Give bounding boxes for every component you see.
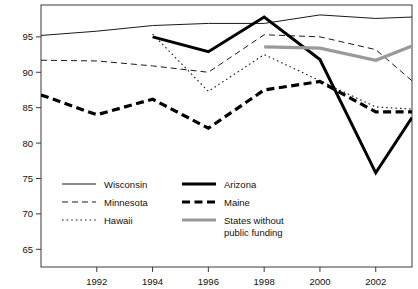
x-axis-label: 2002: [365, 276, 386, 287]
y-axis-label: 80: [22, 138, 33, 149]
legend-label-hawaii: Hawaii: [104, 215, 133, 226]
y-axis-label: 95: [22, 31, 33, 42]
y-axis-label: 90: [22, 67, 33, 78]
legend-label-maine: Maine: [224, 197, 250, 208]
y-axis-label: 70: [22, 208, 33, 219]
line-chart: 65707580859095199219941996199820002002Wi…: [0, 0, 418, 289]
y-axis-label: 85: [22, 102, 33, 113]
x-axis-label: 2000: [309, 276, 330, 287]
legend-label-states-without-public-funding: States without: [224, 215, 284, 226]
x-axis-label: 1992: [86, 276, 107, 287]
chart-container: 65707580859095199219941996199820002002Wi…: [0, 0, 418, 289]
legend-label-wisconsin: Wisconsin: [104, 179, 147, 190]
legend-label-states-without-public-funding-line2: public funding: [224, 227, 283, 238]
x-axis-label: 1994: [142, 276, 163, 287]
y-axis-label: 75: [22, 173, 33, 184]
legend-label-arizona: Arizona: [224, 179, 257, 190]
x-axis-label: 1998: [254, 276, 275, 287]
legend-label-minnesota: Minnesota: [104, 197, 149, 208]
x-axis-label: 1996: [198, 276, 219, 287]
y-axis-label: 65: [22, 244, 33, 255]
